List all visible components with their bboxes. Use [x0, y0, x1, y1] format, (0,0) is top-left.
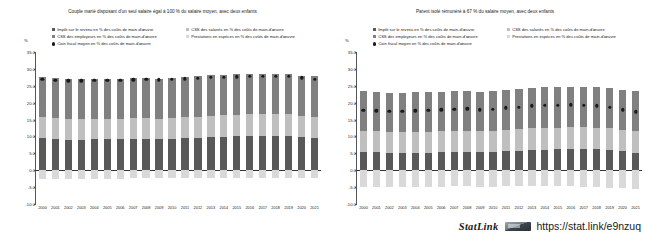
bar-group[interactable]: [373, 52, 380, 204]
bar-segment: [463, 131, 470, 152]
legend-item-cash-benefits: Prestations en espèces en % des coûts de…: [507, 33, 616, 40]
bar-group[interactable]: [298, 52, 305, 204]
statlink-url[interactable]: https://stat.link/e9nzuq: [537, 220, 641, 232]
bar-segment-negative: [311, 170, 318, 177]
bar-segment: [298, 116, 305, 137]
plot-area: [36, 52, 321, 204]
bar-group[interactable]: [412, 52, 419, 204]
bar-segment: [373, 152, 380, 170]
bar-group[interactable]: [619, 52, 626, 204]
bar-group[interactable]: [567, 52, 574, 204]
y-axis-tick-mark: [355, 153, 357, 154]
bar-group[interactable]: [541, 52, 548, 204]
bar-segment: [233, 136, 240, 170]
bar-group[interactable]: [399, 52, 406, 204]
bar-segment: [168, 78, 175, 118]
bar-group[interactable]: [580, 52, 587, 204]
bar-segment-negative: [39, 170, 46, 179]
x-axis-tick-label: 2020: [618, 205, 627, 210]
bar-group[interactable]: [593, 52, 600, 204]
bar-segment: [142, 78, 149, 118]
bar-group[interactable]: [52, 52, 59, 204]
bar-group[interactable]: [463, 52, 470, 204]
employer-ssc-swatch-icon: [52, 35, 55, 38]
bar-segment-negative: [91, 170, 98, 178]
bar-group[interactable]: [194, 52, 201, 204]
legend-label: CSS des salariés en % des coûts de main-…: [191, 27, 283, 32]
bar-segment: [65, 79, 72, 119]
bar-segment: [632, 153, 639, 171]
bar-segment-negative: [528, 170, 535, 186]
statlink-chart-page: Couple marié disposant d'un seul salaire…: [0, 0, 645, 236]
bar-group[interactable]: [246, 52, 253, 204]
x-axis-tick-label: 2010: [489, 205, 498, 210]
bar-segment: [606, 150, 613, 170]
bar-group[interactable]: [515, 52, 522, 204]
bar-segment-negative: [554, 170, 561, 186]
bar-group[interactable]: [155, 52, 162, 204]
bar-segment: [438, 92, 445, 132]
bar-group[interactable]: [386, 52, 393, 204]
bar-segment: [155, 139, 162, 170]
employer-ssc-swatch-icon: [373, 35, 376, 38]
bar-segment-negative: [541, 170, 548, 186]
bar-group[interactable]: [91, 52, 98, 204]
bar-group[interactable]: [220, 52, 227, 204]
bar-segment: [360, 131, 367, 152]
bar-group[interactable]: [142, 52, 149, 204]
bar-segment: [425, 132, 432, 153]
bar-group[interactable]: [632, 52, 639, 204]
bar-group[interactable]: [65, 52, 72, 204]
bar-segment: [311, 117, 318, 138]
x-axis-tick-label: 2018: [592, 205, 601, 210]
bar-group[interactable]: [554, 52, 561, 204]
bar-group[interactable]: [285, 52, 292, 204]
bar-segment: [259, 74, 266, 115]
bar-segment-negative: [65, 170, 72, 179]
legend-label: Impôt sur le revenu en % des coûts de ma…: [57, 27, 153, 32]
bar-group[interactable]: [360, 52, 367, 204]
x-axis-tick-label: 2019: [284, 205, 293, 210]
bar-group[interactable]: [502, 52, 509, 204]
bar-group[interactable]: [104, 52, 111, 204]
bar-segment: [220, 75, 227, 116]
bar-segment: [541, 150, 548, 171]
bar-group[interactable]: [130, 52, 137, 204]
x-axis-tick-label: 2014: [220, 205, 229, 210]
x-axis-tick-label: 2004: [90, 205, 99, 210]
bar-segment: [373, 131, 380, 152]
bar-segment: [386, 132, 393, 153]
bar-group[interactable]: [451, 52, 458, 204]
legend-item-income-tax: Impôt sur le revenu en % des coûts de ma…: [52, 26, 157, 33]
bar-group[interactable]: [606, 52, 613, 204]
bar-group[interactable]: [207, 52, 214, 204]
bar-segment: [194, 138, 201, 170]
bar-segment: [554, 149, 561, 170]
bar-group[interactable]: [117, 52, 124, 204]
bar-group[interactable]: [476, 52, 483, 204]
bar-group[interactable]: [181, 52, 188, 204]
x-axis-tick-label: 2008: [463, 205, 472, 210]
bar-segment-negative: [438, 170, 445, 187]
x-axis-tick-label: 2021: [631, 205, 640, 210]
bar-group[interactable]: [528, 52, 535, 204]
y-axis-tick-mark: [34, 153, 36, 154]
bar-segment: [91, 119, 98, 140]
bar-group[interactable]: [78, 52, 85, 204]
bar-group[interactable]: [259, 52, 266, 204]
x-axis-tick-label: 2001: [51, 205, 60, 210]
bar-group[interactable]: [438, 52, 445, 204]
bar-group[interactable]: [489, 52, 496, 204]
bar-group[interactable]: [425, 52, 432, 204]
x-axis-tick-label: 2006: [437, 205, 446, 210]
cash-benefits-swatch-icon: [507, 35, 510, 38]
bar-segment: [220, 137, 227, 170]
bar-group[interactable]: [168, 52, 175, 204]
bar-group[interactable]: [39, 52, 46, 204]
bar-group[interactable]: [311, 52, 318, 204]
legend-item-income-tax: Impôt sur le revenu en % des coûts de ma…: [373, 26, 478, 33]
bar-segment: [181, 138, 188, 170]
bar-group[interactable]: [233, 52, 240, 204]
bar-segment: [285, 74, 292, 115]
bar-group[interactable]: [272, 52, 279, 204]
